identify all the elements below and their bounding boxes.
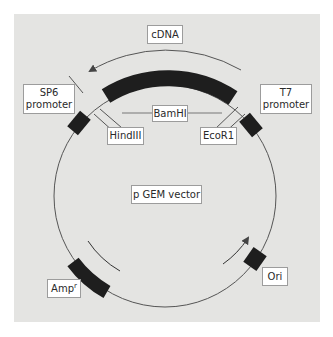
- ori-label-text: Ori: [268, 271, 283, 283]
- ecor1-label-text: EcoR1: [203, 130, 234, 142]
- amp-label-base: Amp: [51, 283, 74, 295]
- sp6-label-line1: SP6: [40, 87, 59, 99]
- sp6-promoter-label: SP6 promoter: [23, 84, 75, 114]
- bamhi-label-text: BamHI: [153, 108, 186, 120]
- bamhi-label: BamHI: [152, 105, 188, 122]
- cdna-label-text: cDNA: [151, 29, 179, 41]
- cdna-insert-block: [106, 78, 233, 98]
- hindiii-label-text: HindIII: [110, 130, 142, 142]
- hindiii-label: HindIII: [107, 127, 144, 145]
- cdna-direction-arrow: [90, 50, 241, 71]
- t7-promoter-label: T7 promoter: [260, 84, 312, 114]
- amp-label-superscript: r: [74, 283, 77, 290]
- amp-resistance-label: Ampr: [47, 279, 81, 298]
- ecor1-label: EcoR1: [200, 127, 237, 145]
- vector-name-label: p GEM vector: [131, 185, 202, 204]
- ori-direction-arrow: [223, 238, 248, 264]
- cdna-label: cDNA: [147, 25, 183, 44]
- t7-label-line1: T7: [280, 87, 292, 99]
- sp6-promoter-block: [67, 111, 91, 135]
- sp6-label-line2: promoter: [26, 99, 72, 111]
- ori-label: Ori: [262, 267, 288, 286]
- amp-direction-arc: [88, 241, 120, 271]
- vector-name-text: p GEM vector: [133, 189, 200, 201]
- t7-label-line2: promoter: [263, 99, 309, 111]
